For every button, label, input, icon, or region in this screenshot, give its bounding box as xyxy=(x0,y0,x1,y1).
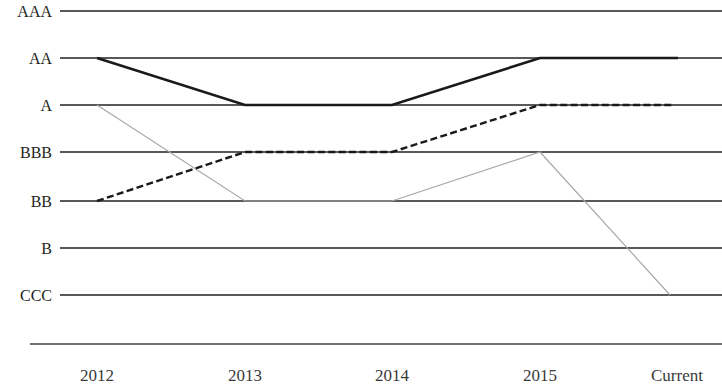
rating-trend-chart: AAA AA A BBB BB B CCC 2012 2013 2014 201… xyxy=(0,0,722,389)
series-dashed-line xyxy=(97,105,674,201)
series-solid-line xyxy=(97,58,678,105)
y-tick-label-ccc: CCC xyxy=(20,287,52,304)
y-tick-label-aa: AA xyxy=(29,50,53,67)
x-tick-label-2015: 2015 xyxy=(523,366,557,385)
y-tick-label-bbb: BBB xyxy=(20,144,52,161)
y-tick-label-bb: BB xyxy=(31,193,52,210)
x-axis-labels: 2012 2013 2014 2015 Current xyxy=(80,366,703,385)
series-thin-gray-line xyxy=(97,105,670,295)
chart-page: AAA AA A BBB BB B CCC 2012 2013 2014 201… xyxy=(0,0,722,389)
y-tick-label-a: A xyxy=(40,97,52,114)
y-axis-labels: AAA AA A BBB BB B CCC xyxy=(17,3,52,304)
y-tick-label-b: B xyxy=(41,240,52,257)
x-tick-label-2014: 2014 xyxy=(375,366,410,385)
x-tick-label-2012: 2012 xyxy=(80,366,114,385)
x-tick-label-current: Current xyxy=(651,366,703,385)
x-tick-label-2013: 2013 xyxy=(228,366,262,385)
y-tick-label-aaa: AAA xyxy=(17,3,52,20)
